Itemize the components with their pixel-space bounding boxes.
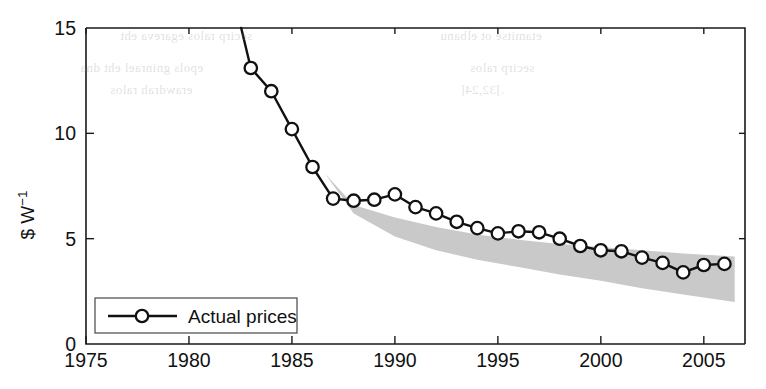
- legend-sample-marker: [136, 310, 148, 322]
- data-point-1995: [492, 227, 504, 239]
- y-tick-label-15: 15: [54, 17, 76, 39]
- data-point-1985: [286, 123, 298, 135]
- forecast-range-band: [325, 173, 735, 302]
- data-point-1997: [533, 226, 545, 238]
- data-point-1984: [265, 85, 277, 97]
- x-tick-label-1980: 1980: [167, 349, 211, 371]
- data-point-2004: [677, 266, 689, 278]
- x-axis-ticks: [86, 28, 704, 344]
- data-point-1991: [409, 201, 421, 213]
- y-axis-tick-labels: 051015: [54, 17, 76, 355]
- data-point-1994: [471, 222, 483, 234]
- y-tick-label-0: 0: [65, 333, 76, 355]
- x-tick-label-1985: 1985: [270, 349, 314, 371]
- y-axis-title-text: $ W: [17, 206, 38, 240]
- data-point-1987: [327, 192, 339, 204]
- data-point-2000: [595, 244, 607, 256]
- y-tick-label-10: 10: [54, 122, 76, 144]
- axes-frame: [86, 28, 745, 344]
- x-tick-label-2005: 2005: [682, 349, 726, 371]
- data-point-1986: [306, 161, 318, 173]
- data-point-1989: [368, 194, 380, 206]
- chart-canvas: 1975198019851990199520002005 051015 $ W−…: [0, 0, 766, 389]
- x-tick-label-1990: 1990: [373, 349, 417, 371]
- data-point-2003: [656, 257, 668, 269]
- data-point-2001: [615, 245, 627, 257]
- data-point-1990: [389, 188, 401, 200]
- x-axis-tick-labels: 1975198019851990199520002005: [64, 349, 725, 371]
- y-axis-title-exponent: −1: [15, 190, 30, 205]
- data-point-1999: [574, 240, 586, 252]
- data-point-2006: [718, 258, 730, 270]
- data-point-1988: [348, 195, 360, 207]
- solar-price-chart-figure: secirp ralos egareva ehtetamitse ot elba…: [0, 0, 766, 389]
- data-point-2002: [636, 251, 648, 263]
- y-axis-title: $ W−1: [15, 190, 39, 239]
- y-tick-label-5: 5: [65, 228, 76, 250]
- svg-text:$ W−1: $ W−1: [15, 190, 39, 239]
- x-tick-label-1995: 1995: [476, 349, 520, 371]
- data-point-2005: [698, 259, 710, 271]
- data-point-1983: [245, 62, 257, 74]
- data-point-1992: [430, 207, 442, 219]
- legend[interactable]: Actual prices: [95, 298, 297, 333]
- data-point-1996: [512, 225, 524, 237]
- legend-entry-label: Actual prices: [188, 306, 297, 327]
- data-point-1993: [451, 216, 463, 228]
- x-tick-label-2000: 2000: [579, 349, 623, 371]
- data-point-1998: [554, 233, 566, 245]
